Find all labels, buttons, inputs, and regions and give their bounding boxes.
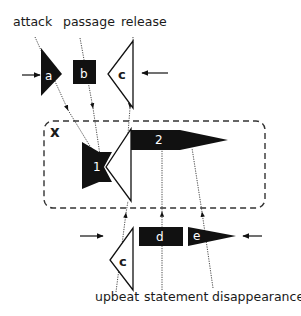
shape-2: 2 [131, 130, 228, 150]
label-upbeat: upbeat [95, 289, 139, 304]
diagram-canvas: attack passage release a b c x 1 2 [0, 0, 301, 316]
shape-e: e [188, 227, 236, 246]
leader-passage-extension [93, 108, 100, 155]
label-release: release [121, 14, 167, 29]
shape-b: b [73, 60, 96, 84]
shape-a-label: a [45, 69, 52, 83]
shape-c-bottom: c [110, 228, 133, 290]
shape-a: a [41, 48, 62, 96]
shape-d: d [139, 227, 183, 246]
group-label-x: x [50, 123, 60, 141]
shape-e-label: e [193, 229, 200, 243]
leader-upbeat-extension [126, 201, 128, 213]
label-statement: statement [144, 289, 208, 304]
label-disappearance: disappearance [212, 289, 301, 304]
shape-2-label: 2 [155, 133, 163, 147]
shape-b-label: b [80, 67, 88, 81]
shape-c-bottom-label: c [119, 254, 127, 269]
label-passage: passage [63, 14, 115, 29]
shape-1-label: 1 [93, 160, 101, 174]
leader-disappearance-extension [192, 148, 202, 212]
leader-disappearance [202, 212, 213, 288]
shape-c-top-label: c [118, 67, 126, 82]
shape-c-top: c [108, 41, 133, 108]
central-release-triangle [106, 129, 131, 201]
shape-d-label: d [156, 230, 164, 244]
label-attack: attack [13, 14, 53, 29]
